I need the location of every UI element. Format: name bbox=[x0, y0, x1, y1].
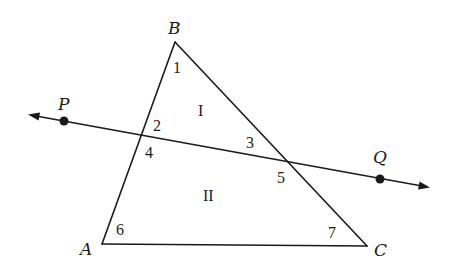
region-ii-label: II bbox=[203, 187, 214, 204]
angle-5-label: 5 bbox=[277, 169, 285, 186]
angle-4-label: 4 bbox=[145, 144, 153, 161]
side-bc bbox=[175, 42, 367, 246]
point-q-dot bbox=[376, 175, 385, 184]
triangle-transversal-diagram: B A C P Q 1 2 3 4 5 6 7 I II bbox=[0, 0, 454, 260]
region-i-label: I bbox=[198, 102, 203, 119]
angle-2-label: 2 bbox=[153, 117, 161, 134]
side-ab bbox=[102, 42, 175, 244]
point-p-dot bbox=[60, 117, 69, 126]
angle-1-label: 1 bbox=[173, 59, 181, 76]
angle-7-label: 7 bbox=[328, 224, 336, 241]
line-pq bbox=[36, 116, 422, 186]
label-b: B bbox=[167, 18, 181, 38]
label-a: A bbox=[78, 239, 92, 259]
arrowhead-left-icon bbox=[28, 113, 40, 121]
label-c: C bbox=[374, 240, 387, 260]
label-p: P bbox=[57, 94, 70, 114]
angle-3-label: 3 bbox=[246, 134, 254, 151]
angle-6-label: 6 bbox=[116, 221, 124, 238]
side-ac bbox=[102, 244, 367, 246]
arrowhead-right-icon bbox=[418, 182, 430, 190]
label-q: Q bbox=[373, 147, 387, 167]
